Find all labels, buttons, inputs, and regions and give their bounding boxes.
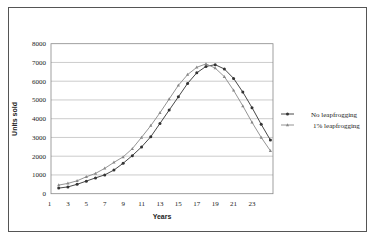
series-no-leapfrogging (57, 63, 272, 189)
x-tick-label: 7 (103, 200, 107, 208)
legend-label: No leapfrogging (311, 111, 358, 119)
data-point-circle (195, 71, 198, 74)
x-tick-label: 9 (121, 200, 125, 208)
x-tick-label: 21 (230, 200, 238, 208)
y-axis-label: Units sold (11, 102, 18, 136)
y-tick-label: 2000 (32, 153, 47, 161)
x-tick-label: 5 (85, 200, 89, 208)
series-one-percent-leapfrogging (57, 62, 272, 186)
data-point-circle (241, 91, 244, 94)
y-tick-label: 3000 (32, 134, 47, 142)
y-axis-ticks: 010002000300040005000600070008000 (32, 40, 47, 198)
x-tick-label: 15 (175, 200, 183, 208)
data-point-circle (94, 176, 97, 179)
data-point-circle (232, 77, 235, 80)
y-tick-label: 0 (43, 190, 47, 198)
data-point-circle (140, 146, 143, 149)
y-tick-label: 8000 (32, 40, 47, 48)
data-point-circle (260, 123, 263, 126)
data-point-circle (177, 95, 180, 98)
y-tick-label: 6000 (32, 78, 47, 86)
y-tick-label: 4000 (32, 115, 47, 123)
x-tick-label: 17 (193, 200, 201, 208)
x-axis-ticks: 1357911131517192123 (48, 200, 256, 208)
data-point-circle (76, 183, 79, 186)
y-tick-label: 1000 (32, 171, 47, 179)
x-tick-label: 13 (156, 200, 164, 208)
x-tick-label: 23 (249, 200, 257, 208)
data-point-circle (103, 173, 106, 176)
x-tick-label: 3 (66, 200, 70, 208)
x-axis-label: Years (153, 213, 172, 220)
data-point-circle (251, 106, 254, 109)
x-tick-label: 1 (48, 200, 52, 208)
data-point-circle (269, 139, 272, 142)
data-point-circle (66, 185, 69, 188)
data-point-circle (223, 68, 226, 71)
data-point-circle (112, 169, 115, 172)
data-point-circle (57, 187, 60, 190)
data-point-circle (149, 135, 152, 138)
line-chart: 010002000300040005000600070008000 135791… (0, 0, 376, 244)
legend-marker-circle-icon (286, 113, 289, 116)
data-point-circle (204, 65, 207, 68)
y-tick-label: 7000 (32, 59, 47, 67)
data-point-circle (158, 122, 161, 125)
data-point-circle (186, 82, 189, 85)
gridlines (51, 62, 273, 175)
legend: No leapfrogging1% leapfrogging (281, 111, 360, 130)
data-point-circle (168, 109, 171, 112)
data-point-circle (131, 154, 134, 157)
x-tick-label: 19 (212, 200, 220, 208)
x-tick-label: 11 (138, 200, 145, 208)
data-point-circle (122, 162, 125, 165)
y-tick-label: 5000 (32, 96, 47, 104)
legend-label: 1% leapfrogging (313, 122, 360, 130)
data-point-circle (214, 63, 217, 66)
data-point-circle (85, 180, 88, 183)
